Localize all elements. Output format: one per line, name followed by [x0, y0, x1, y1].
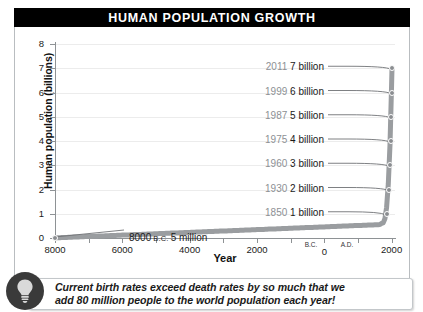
origin-annotation-era: B.C. [153, 234, 168, 243]
annotation-year: 1960 [265, 158, 287, 169]
data-point-dot [386, 187, 392, 193]
leader-line [328, 139, 390, 142]
caption-line-1: Current birth rates exceed death rates b… [55, 281, 345, 294]
leader-line [328, 212, 386, 215]
population-growth-figure: HUMAN POPULATION GROWTH Human population… [0, 0, 423, 312]
leader-line [328, 115, 390, 118]
origin-annotation-value: 5 million [171, 232, 208, 243]
leader-line [328, 91, 391, 94]
leader-line [328, 188, 388, 191]
annotation-1930: 1930 2 billion [265, 183, 324, 194]
lightbulb-icon [6, 272, 44, 310]
annotation-value: 7 billion [287, 61, 324, 72]
annotation-1999: 1999 6 billion [265, 86, 324, 97]
annotation-value: 6 billion [287, 86, 324, 97]
data-point-dot [384, 211, 390, 217]
caption-line-2: add 80 million people to the world popul… [55, 294, 345, 307]
caption-text: Current birth rates exceed death rates b… [55, 281, 345, 307]
leader-line [328, 66, 391, 69]
annotation-value: 5 billion [287, 110, 324, 121]
annotation-1960: 1960 3 billion [265, 158, 324, 169]
annotation-value: 2 billion [287, 183, 324, 194]
origin-annotation: 8000B.C.5 million [129, 232, 207, 243]
annotation-value: 3 billion [287, 158, 324, 169]
population-curve [14, 27, 410, 280]
data-point-dot [389, 65, 395, 71]
annotation-year: 1930 [265, 183, 287, 194]
annotation-year: 2011 [266, 61, 288, 72]
annotation-1987: 1987 5 billion [265, 110, 324, 121]
annotation-1850: 1850 1 billion [265, 207, 324, 218]
caption-bar: Current birth rates exceed death rates b… [28, 278, 413, 310]
data-point-dot [389, 90, 395, 96]
annotation-value: 1 billion [287, 207, 324, 218]
annotation-value: 4 billion [287, 134, 324, 145]
annotation-year: 1999 [265, 86, 287, 97]
annotation-year: 1987 [265, 110, 287, 121]
chart-title-bar: HUMAN POPULATION GROWTH [14, 8, 410, 27]
data-point-dot [387, 162, 393, 168]
page-title: HUMAN POPULATION GROWTH [108, 11, 316, 25]
annotation-year: 1975 [265, 134, 287, 145]
data-point-dot [388, 114, 394, 120]
annotation-1975: 1975 4 billion [265, 134, 324, 145]
annotation-2011: 2011 7 billion [266, 61, 324, 72]
origin-annotation-year: 8000 [129, 232, 151, 243]
origin-data-dot [52, 235, 58, 241]
annotation-year: 1850 [265, 207, 287, 218]
leader-line [328, 163, 389, 166]
plot-wrapper: Human population (billions) Year 0123456… [14, 27, 410, 280]
data-point-dot [388, 138, 394, 144]
